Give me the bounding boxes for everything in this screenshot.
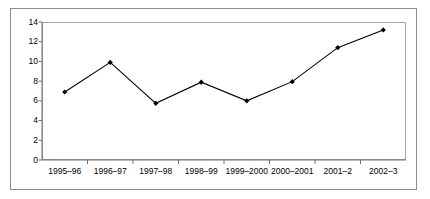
x-axis-tick-label: 2002–3 bbox=[369, 166, 397, 176]
y-axis-tick-label: 10 bbox=[12, 57, 38, 65]
y-axis-tick-label: 8 bbox=[12, 77, 38, 85]
y-axis-tick-label: 4 bbox=[12, 116, 38, 124]
x-axis-tick-label: 2001–2 bbox=[324, 166, 352, 176]
x-axis-tick-label: 1995–96 bbox=[48, 166, 81, 176]
x-axis-tick-label: 1996–97 bbox=[94, 166, 127, 176]
data-point-markers bbox=[62, 27, 386, 106]
y-axis-tick-label: 2 bbox=[12, 136, 38, 144]
y-axis-tick-label: 12 bbox=[12, 37, 38, 45]
x-axis-tick-label: 1997–98 bbox=[139, 166, 172, 176]
y-axis-tick-labels: 02468101214 bbox=[8, 0, 38, 199]
data-point-marker bbox=[199, 80, 204, 85]
y-axis-tick-label: 14 bbox=[12, 18, 38, 26]
data-point-marker bbox=[244, 98, 249, 103]
y-axis-tick-label: 0 bbox=[12, 156, 38, 164]
x-axis-tick-label: 2000–2001 bbox=[271, 166, 314, 176]
x-axis-tick-label: 1998–99 bbox=[185, 166, 218, 176]
chart-figure: 02468101214 1995–961996–971997–981998–99… bbox=[0, 0, 430, 199]
data-series-line bbox=[65, 30, 384, 103]
data-point-marker bbox=[381, 27, 386, 32]
x-axis-tick-labels: 1995–961996–971997–981998–991999–2000200… bbox=[42, 166, 406, 182]
y-axis-tick-label: 6 bbox=[12, 96, 38, 104]
x-axis-tick-label: 1999–2000 bbox=[225, 166, 268, 176]
line-chart-plot bbox=[42, 22, 406, 160]
